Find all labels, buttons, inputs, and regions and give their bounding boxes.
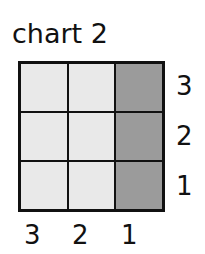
row-label: 3	[176, 71, 193, 101]
grid-cell	[20, 63, 68, 112]
col-label: 3	[24, 220, 41, 250]
grid-cell	[68, 63, 116, 112]
grid-cell	[115, 63, 163, 112]
grid-cell	[68, 112, 116, 161]
chart-title: chart 2	[12, 18, 108, 50]
grid-cell	[20, 112, 68, 161]
grid-cell	[115, 161, 163, 210]
grid-cell	[115, 112, 163, 161]
grid-cell	[20, 161, 68, 210]
col-label: 1	[121, 220, 138, 250]
grid	[18, 61, 165, 212]
row-label: 2	[176, 121, 193, 151]
row-label: 1	[176, 171, 193, 201]
grid-cell	[68, 161, 116, 210]
col-label: 2	[72, 220, 89, 250]
